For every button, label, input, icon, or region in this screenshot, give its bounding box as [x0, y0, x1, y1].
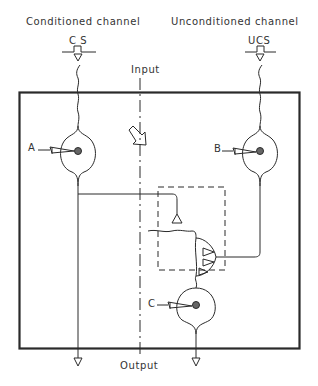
- outer-box: [20, 93, 300, 349]
- neuron-c-nucleus: [193, 302, 200, 309]
- neuron-a-nucleus: [75, 148, 82, 155]
- synapse-terminal-1: [172, 214, 182, 223]
- electrode-b-icon: [222, 148, 256, 155]
- neuron-c: [177, 288, 216, 334]
- ucs-input-axon: [259, 65, 262, 126]
- output-arrow-left-icon: [74, 358, 82, 366]
- ucs-pulse-icon: [245, 46, 276, 61]
- cross-dendrite: [148, 230, 196, 238]
- neuron-b-axon: [216, 186, 260, 257]
- neuron-a-axon: [78, 186, 177, 214]
- neuron-b-nucleus: [257, 148, 264, 155]
- cs-input-axon: [77, 65, 80, 126]
- electrode-c-icon: [157, 302, 192, 309]
- neuron-a: [61, 126, 96, 186]
- electrode-a-icon: [38, 147, 74, 154]
- output-arrow-right-icon: [192, 358, 200, 366]
- dashed-box: [158, 187, 225, 270]
- diagonal-arrow-icon: [129, 126, 146, 145]
- circuit-diagram: [0, 0, 318, 386]
- neuron-b: [243, 126, 278, 186]
- neuron-c-dendrite: [195, 276, 196, 288]
- cs-pulse-icon: [62, 46, 96, 61]
